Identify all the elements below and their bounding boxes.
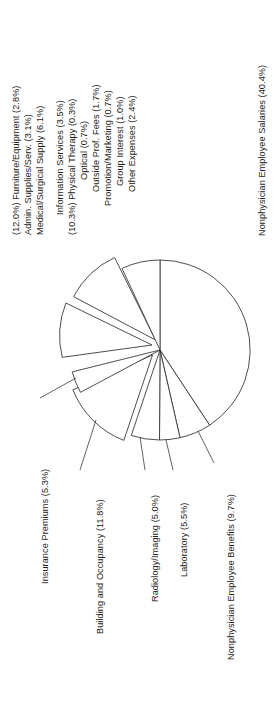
pie-label-other-expenses: Other Expenses (2.4%)	[128, 95, 137, 192]
pie-label-admin-supplies: Admin. Supplies/Serv. (3.1%)	[24, 114, 33, 235]
pie-label-physical-therapy: (10.3%) Physical Therapy (0.3%)	[68, 99, 77, 235]
pie-label-information-services: Information Services (3.5%)	[56, 100, 65, 215]
pie-label-medical-surgical-supply: Medical/Surgical Supply (6.1%)	[36, 106, 45, 235]
pie-label-nonphysician-employee-salaries: Nonphysician Employee Salaries (40.4%)	[258, 65, 267, 236]
pie-label-building-and-occupancy: Building and Occupancy (11.8%)	[96, 499, 105, 634]
pie-label-furniture-equipment: (12.0%) Furniture/Equipment (2.8%)	[12, 86, 21, 235]
pie-label-group-interest: Group Interest (1.0%)	[116, 96, 125, 186]
pie-label-promotion-marketing: Promotion/Marketing (0.7%)	[104, 90, 113, 206]
pie-label-optical: Optical (0.7%)	[80, 121, 89, 180]
pie-slices	[60, 258, 251, 441]
pie-label-laboratory: Laboratory (5.5%)	[180, 503, 189, 578]
pie-label-radiology-imaging: Radiology/Imaging (5.0%)	[151, 495, 160, 602]
pie-chart-figure: (12.0%) Furniture/Equipment (2.8%) Admin…	[0, 0, 276, 713]
pie-label-outside-prof-fees: Outside Prof. Fees (1.7%)	[92, 84, 101, 192]
pie-label-insurance-premiums: Insurance Premiums (5.3%)	[41, 469, 50, 584]
pie-label-nonphysician-employee-benefits: Nonphysician Employee Benefits (9.7%)	[227, 494, 236, 660]
